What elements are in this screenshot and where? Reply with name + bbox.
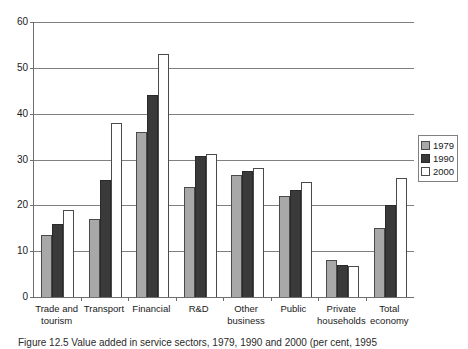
bar (253, 168, 264, 297)
x-axis-category-label: Otherbusiness (222, 303, 269, 327)
bar (290, 190, 301, 297)
x-axis-category-label-line: Trade and (33, 303, 80, 315)
bar (89, 219, 100, 297)
y-axis-tick-label: 40 (17, 109, 28, 119)
x-axis-category-label-line: R&D (175, 303, 222, 315)
chart-legend: 197919902000 (418, 135, 458, 182)
x-axis-category-label-line: Public (270, 303, 317, 315)
bar-group (129, 22, 177, 297)
x-axis-category-label: Totaleconomy (366, 303, 413, 327)
bar-group (224, 22, 272, 297)
bar-group (319, 22, 367, 297)
x-axis-category-label-line: Financial (128, 303, 175, 315)
bar-group (177, 22, 225, 297)
legend-item[interactable]: 2000 (421, 165, 454, 178)
x-axis-tick (223, 297, 224, 301)
legend-swatch-icon (421, 154, 430, 163)
bar (147, 95, 158, 297)
bar (348, 266, 359, 297)
x-axis-category-label: Financial (128, 303, 175, 327)
legend-swatch-icon (421, 141, 430, 150)
bar (326, 260, 337, 297)
bar (111, 123, 122, 297)
bar (374, 228, 385, 297)
y-axis-tick-label: 30 (17, 155, 28, 165)
x-axis-category-label: R&D (175, 303, 222, 327)
x-axis-category-label-line: Other (222, 303, 269, 315)
legend-item-label: 1990 (433, 154, 454, 164)
legend-item[interactable]: 1990 (421, 152, 454, 165)
bar-group (272, 22, 320, 297)
bar (52, 224, 63, 297)
x-axis-category-label-line: Total (366, 303, 413, 315)
bars-layer (34, 22, 414, 297)
bar-group (367, 22, 415, 297)
x-axis-category-labels: Trade andtourismTransportFinancialR&DOth… (33, 303, 413, 327)
bar-group (82, 22, 130, 297)
bar (396, 178, 407, 297)
plot-area: 0102030405060 (33, 22, 414, 298)
x-axis-category-label-line: Private (317, 303, 366, 315)
x-axis-category-label-line: economy (366, 315, 413, 327)
legend-item[interactable]: 1979 (421, 139, 454, 152)
bar (337, 265, 348, 297)
x-axis-category-label: Transport (80, 303, 127, 327)
legend-swatch-icon (421, 167, 430, 176)
bar (206, 154, 217, 297)
x-axis-category-label: Privatehouseholds (317, 303, 366, 327)
bar (136, 132, 147, 297)
bar (385, 205, 396, 297)
legend-item-label: 1979 (433, 141, 454, 151)
bar (158, 54, 169, 297)
y-axis-tick-label: 50 (17, 63, 28, 73)
bar (195, 156, 206, 297)
y-axis-tick-label: 0 (22, 292, 28, 302)
x-axis-tick (318, 297, 319, 301)
y-axis-tick-label: 20 (17, 200, 28, 210)
x-axis-category-label-line: tourism (33, 315, 80, 327)
bar (301, 182, 312, 297)
bar (41, 235, 52, 297)
x-axis-category-label-line: households (317, 315, 366, 327)
x-axis-tick (81, 297, 82, 301)
x-axis-tick (128, 297, 129, 301)
bar (279, 196, 290, 297)
bar (100, 180, 111, 297)
y-axis-tick-label: 10 (17, 246, 28, 256)
figure-caption: Figure 12.5 Value added in service secto… (18, 336, 458, 349)
x-axis-category-label: Trade andtourism (33, 303, 80, 327)
x-axis-category-label-line: business (222, 315, 269, 327)
y-axis-tick (30, 297, 34, 298)
bar (231, 175, 242, 297)
legend-item-label: 2000 (433, 167, 454, 177)
x-axis-tick (271, 297, 272, 301)
bar (63, 210, 74, 297)
x-axis-tick (366, 297, 367, 301)
x-axis-category-label-line: Transport (80, 303, 127, 315)
x-axis-category-label: Public (270, 303, 317, 327)
y-axis-tick-label: 60 (17, 17, 28, 27)
bar (242, 171, 253, 297)
bar-group (34, 22, 82, 297)
x-axis-tick (176, 297, 177, 301)
bar (184, 187, 195, 297)
